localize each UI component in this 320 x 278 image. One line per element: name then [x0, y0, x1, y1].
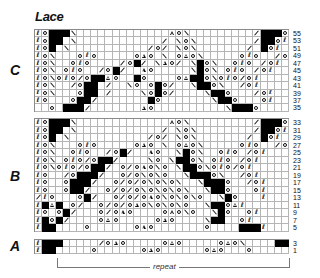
- chart-cell: [49, 164, 56, 172]
- chart-cell: [113, 75, 120, 82]
- no-stitch-cell: [70, 187, 77, 195]
- ssk-icon: [191, 60, 196, 65]
- yarn-over-icon: [276, 128, 280, 132]
- yarn-over-icon: [149, 83, 153, 87]
- chart-cell: [155, 127, 162, 135]
- chart-cell: [190, 134, 197, 142]
- ssk-icon: [148, 180, 153, 185]
- chart-cell: [282, 82, 289, 89]
- chart-cell: [169, 164, 176, 172]
- no-stitch-cell: [56, 30, 63, 37]
- k2tog-icon: [120, 202, 125, 207]
- yarn-over-icon: [128, 210, 132, 214]
- chart-cell: [183, 194, 190, 202]
- chart-cell: [162, 75, 169, 82]
- chart-cell: [113, 52, 120, 59]
- chart-cell: [113, 202, 120, 210]
- yarn-over-icon: [128, 61, 132, 65]
- yarn-over-icon: [247, 173, 251, 177]
- section-c-grid: ℓ55ℓℓ53ℓℓ51ℓℓℓ49ℓℓℓℓ47ℓℓℓℓ45ℓℓℓℓ43ℓℓ41ℓℓ…: [34, 29, 289, 112]
- yarn-over-icon: [226, 180, 230, 184]
- no-stitch-cell: [49, 30, 56, 37]
- chart-cell: [141, 217, 148, 225]
- chart-cell: [84, 30, 91, 37]
- twisted-stitch-icon: ℓ: [248, 164, 251, 171]
- chart-cell: [169, 52, 176, 59]
- chart-cell: [183, 75, 190, 82]
- yarn-over-icon: [191, 150, 195, 154]
- chart-cell: [134, 82, 141, 89]
- chart-cell: [282, 157, 289, 165]
- ssk-icon: [191, 135, 196, 140]
- chart-cell: [127, 149, 134, 157]
- chart-cell: [211, 247, 218, 254]
- yarn-over-icon: [177, 76, 181, 80]
- chart-cell: [63, 217, 70, 225]
- chart-cell: [232, 172, 239, 180]
- chart-cell: ℓ: [35, 127, 42, 135]
- yarn-over-icon: [184, 195, 188, 199]
- twisted-stitch-icon: ℓ: [86, 52, 89, 58]
- chart-cell: [225, 164, 232, 172]
- yarn-over-icon: [156, 203, 160, 207]
- chart-cell: [239, 45, 246, 52]
- chart-cell: [113, 142, 120, 150]
- chart-cell: [77, 142, 84, 150]
- chart-cell: [77, 30, 84, 37]
- no-stitch-cell: [63, 30, 70, 37]
- chart-cell: [268, 52, 275, 59]
- no-stitch-cell: [253, 224, 260, 232]
- yarn-over-icon: [254, 143, 258, 147]
- twisted-stitch-icon: ℓ: [262, 194, 265, 201]
- chart-cell: [49, 104, 56, 111]
- yarn-over-icon: [57, 165, 61, 169]
- no-stitch-cell: [275, 30, 282, 37]
- chart-cell: [190, 67, 197, 74]
- chart-cell: [148, 75, 155, 82]
- chart-cell: [204, 30, 211, 37]
- no-stitch-cell: [204, 179, 211, 187]
- no-stitch-cell: [218, 90, 225, 97]
- chart-cell: [120, 134, 127, 142]
- yarn-over-icon: [149, 91, 153, 95]
- chart-cell: [268, 217, 275, 225]
- twisted-stitch-icon: ℓ: [255, 75, 258, 81]
- chart-cell: ℓ: [35, 67, 42, 74]
- chart-cell: [91, 187, 98, 195]
- no-stitch-cell: [155, 90, 162, 97]
- chart-cell: [176, 164, 183, 172]
- twisted-stitch-icon: ℓ: [36, 90, 39, 96]
- chart-cell: ℓ: [268, 90, 275, 97]
- chart-cell: [56, 247, 63, 254]
- chart-cell: [49, 82, 56, 89]
- chart-cell: [232, 240, 239, 247]
- ssk-icon: [177, 150, 182, 155]
- chart-cell: [183, 82, 190, 89]
- chart-cell: ℓ: [253, 75, 260, 82]
- no-stitch-cell: [63, 119, 70, 127]
- chart-cell: [190, 52, 197, 59]
- chart-cell: [70, 90, 77, 97]
- chart-cell: [98, 60, 105, 67]
- chart-cell: [197, 247, 204, 254]
- double-decrease-icon: [142, 54, 146, 58]
- chart-cell: [98, 37, 105, 44]
- yarn-over-icon: [226, 165, 230, 169]
- chart-cell: [204, 157, 211, 165]
- chart-cell: ℓ: [35, 30, 42, 37]
- chart-cell: [141, 134, 148, 142]
- chart-cell: [77, 134, 84, 142]
- yarn-over-icon: [219, 241, 223, 245]
- chart-cell: [275, 217, 282, 225]
- chart-cell: [225, 37, 232, 44]
- ssk-icon: [163, 202, 168, 207]
- chart-cell: [162, 60, 169, 67]
- chart-cell: [91, 209, 98, 217]
- chart-cell: [162, 172, 169, 180]
- chart-cell: [127, 67, 134, 74]
- row-number: 1: [293, 247, 297, 254]
- k2tog-icon: [254, 31, 259, 36]
- no-stitch-cell: [190, 164, 197, 172]
- chart-cell: [204, 119, 211, 127]
- no-stitch-cell: [261, 127, 268, 135]
